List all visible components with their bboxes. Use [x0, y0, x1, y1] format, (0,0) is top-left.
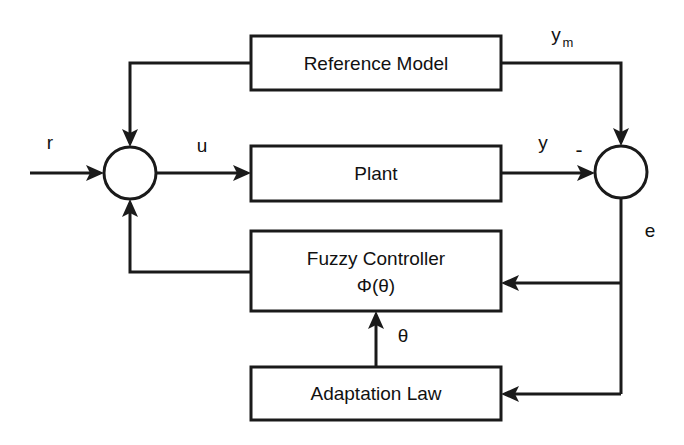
block-adaptation-law[interactable]: Adaptation Law	[251, 367, 501, 420]
block-plant[interactable]: Plant	[251, 146, 501, 201]
adaptation-law-label: Adaptation Law	[311, 383, 442, 404]
wire-ym-refmodel-to-sum	[501, 63, 629, 146]
wire-e-to-fuzzy	[501, 275, 621, 291]
summing-junction-right[interactable]	[595, 146, 647, 198]
wire-theta-adaptation-to-fuzzy	[368, 311, 384, 367]
signal-label-theta: θ	[398, 325, 409, 346]
wire-r-input	[30, 165, 104, 181]
block-reference-model[interactable]: Reference Model	[251, 36, 501, 90]
signal-label-u: u	[197, 135, 208, 156]
signal-label-ym: y m	[551, 24, 573, 50]
signal-label-minus-sign: -	[576, 138, 583, 161]
signal-label-ym-base: y	[551, 24, 561, 45]
plant-label: Plant	[354, 163, 398, 184]
reference-model-label: Reference Model	[304, 53, 449, 74]
fuzzy-controller-label: Fuzzy Controller	[307, 248, 446, 269]
signal-label-ym-subscript: m	[563, 35, 574, 50]
wire-fuzzy-to-sum-left	[122, 199, 251, 272]
signal-label-e: e	[645, 220, 656, 241]
wire-e-to-adaptation	[501, 386, 621, 402]
fuzzy-controller-formula: Φ(θ)	[357, 275, 395, 296]
summing-junction-left[interactable]	[104, 147, 156, 199]
wire-y-plant-to-sum	[501, 165, 595, 181]
block-fuzzy-controller[interactable]: Fuzzy Controller Φ(θ)	[251, 231, 501, 311]
signal-label-r: r	[47, 132, 54, 153]
block-diagram-svg: Reference Model Plant Fuzzy Controller Φ…	[0, 0, 684, 445]
wire-refmodel-to-sum-left	[122, 63, 251, 147]
block-diagram-canvas: Reference Model Plant Fuzzy Controller Φ…	[0, 0, 684, 445]
fuzzy-controller-rect[interactable]	[251, 231, 501, 311]
wire-u-sum-to-plant	[156, 165, 251, 181]
signal-label-y: y	[538, 132, 548, 153]
